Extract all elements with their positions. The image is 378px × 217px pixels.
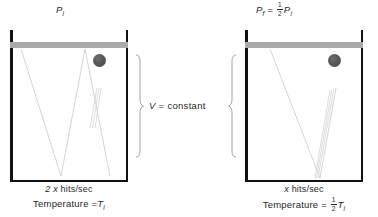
volume-constant-label: V = constant xyxy=(149,100,206,111)
right-pressure-subscript: f xyxy=(263,10,265,17)
right-gas-particle xyxy=(328,54,341,67)
volume-equals: = xyxy=(159,100,165,111)
left-volume-brace xyxy=(135,54,144,158)
right-container-interior xyxy=(248,48,361,180)
right-hits-variable: x xyxy=(284,184,289,194)
left-container-wall-right xyxy=(126,30,129,182)
left-gas-particle xyxy=(93,54,106,67)
right-container xyxy=(245,30,363,182)
right-volume-brace xyxy=(228,54,237,158)
left-hits-prefix: 2 xyxy=(45,184,50,194)
left-pressure-subscript: i xyxy=(63,10,65,17)
right-temperature-fraction: 1 2 xyxy=(331,197,337,212)
left-container-floor xyxy=(10,180,128,183)
diagram-canvas: Pi Pf = 1 2 Pi xyxy=(0,0,378,217)
right-hits-unit: hits/sec xyxy=(292,184,324,194)
right-container-wall-right xyxy=(361,30,364,182)
right-title-fraction: 1 2 xyxy=(277,2,283,17)
right-temperature-fraction-numerator: 1 xyxy=(331,197,337,204)
right-temperature-label: Temperature xyxy=(263,199,319,210)
volume-symbol: V xyxy=(149,100,156,111)
right-container-floor xyxy=(245,180,363,183)
right-title-rhs-subscript: i xyxy=(290,10,292,17)
left-hits-unit: hits/sec xyxy=(61,184,93,194)
right-panel-title: Pf = 1 2 Pi xyxy=(256,2,292,17)
right-brace-icon xyxy=(228,54,237,158)
volume-value: constant xyxy=(167,100,205,111)
left-temperature-caption: Temperature =Ti xyxy=(2,198,136,211)
right-temperature-caption: Temperature = 1 2 Ti xyxy=(237,197,371,212)
left-temperature-subscript: i xyxy=(103,204,105,211)
left-hits-variable: x xyxy=(53,184,58,194)
left-container-interior xyxy=(13,48,126,180)
right-temperature-subscript: i xyxy=(344,205,346,212)
right-title-fraction-numerator: 1 xyxy=(277,2,283,9)
right-title-equals: = xyxy=(267,4,273,15)
right-trajectory-lines xyxy=(248,48,361,179)
left-brace-icon xyxy=(135,54,144,158)
right-temperature-equals: = xyxy=(321,199,327,210)
right-temperature-fraction-denominator: 2 xyxy=(331,204,337,212)
left-temperature-label: Temperature xyxy=(33,198,89,209)
left-panel-title: Pi xyxy=(56,4,64,17)
left-hits-caption: 2 x hits/sec xyxy=(10,184,128,194)
right-title-fraction-denominator: 2 xyxy=(277,9,283,17)
left-container xyxy=(10,30,128,182)
right-hits-caption: x hits/sec xyxy=(245,184,363,194)
left-trajectory-lines xyxy=(13,48,126,179)
